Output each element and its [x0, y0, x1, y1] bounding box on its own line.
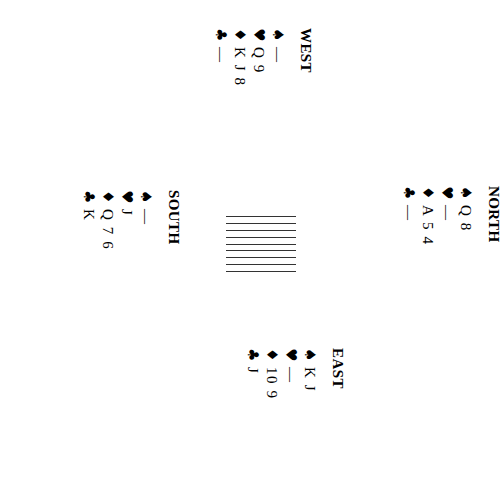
hand-north-hearts-cards: —	[438, 201, 456, 220]
heart-icon: ♥	[438, 186, 456, 201]
heart-icon: ♥	[250, 28, 268, 43]
hand-north-label: NORTH	[486, 186, 501, 242]
hand-west-diamonds-cards: K J 8	[231, 43, 249, 87]
hand-west-clubs-row: ♣ —	[212, 28, 230, 62]
hand-south-label: SOUTH	[166, 190, 181, 245]
diamond-icon: ♦	[231, 28, 249, 43]
spade-icon: ♠	[269, 28, 287, 43]
hand-south-spades-row: ♠ —	[137, 190, 155, 224]
hand-east-clubs-row: ♣ J	[244, 348, 262, 374]
hatch-line	[226, 257, 296, 258]
hand-west-spades-cards: —	[269, 43, 287, 62]
hatch-line	[226, 271, 296, 272]
club-icon: ♣	[80, 190, 98, 205]
hand-south-spades-cards: —	[137, 205, 155, 224]
heart-icon: ♥	[118, 190, 136, 205]
hand-north-hearts-row: ♥ —	[438, 186, 456, 220]
club-icon: ♣	[212, 28, 230, 43]
club-icon: ♣	[244, 348, 262, 363]
hand-north: NORTH ♠ Q 8 ♥ — ♦ A 5 4 ♣ —	[399, 186, 501, 246]
hand-west-clubs-cards: —	[212, 43, 230, 62]
center-hatched-block	[226, 216, 296, 272]
hand-west-label: WEST	[298, 28, 313, 73]
hand-west-hearts-row: ♥ Q 9	[250, 28, 268, 74]
spade-icon: ♠	[457, 186, 475, 201]
hand-east-hearts-row: ♥ —	[282, 348, 300, 382]
diamond-icon: ♦	[419, 186, 437, 201]
hand-west-diamonds-row: ♦ K J 8	[231, 28, 249, 87]
hand-north-diamonds-row: ♦ A 5 4	[419, 186, 437, 246]
hand-north-diamonds-cards: A 5 4	[419, 201, 437, 246]
hand-east: EAST ♠ K J ♥ — ♦ 10 9 ♣ J	[243, 348, 345, 400]
hand-south-clubs-row: ♣ K	[80, 190, 98, 221]
diamond-icon: ♦	[99, 190, 117, 205]
club-icon: ♣	[400, 186, 418, 201]
hatch-line	[226, 250, 296, 251]
hand-east-diamonds-row: ♦ 10 9	[263, 348, 281, 400]
hand-north-clubs-row: ♣ —	[400, 186, 418, 220]
hand-north-spades-cards: Q 8	[457, 201, 475, 232]
hand-east-label: EAST	[330, 348, 345, 389]
hand-south: SOUTH ♠ — ♥ J ♦ Q 7 6 ♣ K	[79, 190, 181, 250]
hatch-line	[226, 230, 296, 231]
hand-west-hearts-cards: Q 9	[250, 43, 268, 74]
hand-north-spades-row: ♠ Q 8	[457, 186, 475, 232]
spade-icon: ♠	[301, 348, 319, 363]
hand-north-clubs-cards: —	[400, 201, 418, 220]
hand-east-diamonds-cards: 10 9	[263, 363, 281, 400]
hand-south-diamonds-row: ♦ Q 7 6	[99, 190, 117, 250]
hand-south-hearts-cards: J	[118, 205, 136, 216]
hand-east-spades-cards: K J	[301, 363, 319, 392]
hand-south-diamonds-cards: Q 7 6	[99, 205, 117, 250]
hand-east-clubs-cards: J	[244, 363, 262, 374]
spade-icon: ♠	[137, 190, 155, 205]
heart-icon: ♥	[282, 348, 300, 363]
hand-west: WEST ♠ — ♥ Q 9 ♦ K J 8 ♣ —	[211, 28, 313, 87]
hand-south-clubs-cards: K	[80, 205, 98, 221]
hand-east-hearts-cards: —	[282, 363, 300, 382]
hand-west-spades-row: ♠ —	[269, 28, 287, 62]
bridge-deal-diagram: WEST ♠ — ♥ Q 9 ♦ K J 8 ♣ — NORTH ♠	[0, 0, 504, 493]
diamond-icon: ♦	[263, 348, 281, 363]
hatch-line	[226, 223, 296, 224]
hatch-line	[226, 264, 296, 265]
hatch-line	[226, 237, 296, 238]
hand-south-hearts-row: ♥ J	[118, 190, 136, 216]
hatch-line	[226, 244, 296, 245]
hatch-line	[226, 216, 296, 217]
hand-east-spades-row: ♠ K J	[301, 348, 319, 392]
